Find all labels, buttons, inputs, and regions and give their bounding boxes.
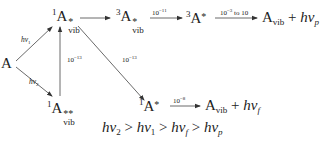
fluorescence-product: Avib + hνf xyxy=(205,98,260,115)
label-hv2: hν2 xyxy=(29,77,39,87)
label-hv1: hν1 xyxy=(21,35,31,45)
energy-inequality: hν2 > hν1 > hνf > hνp xyxy=(102,120,223,137)
state-singlet-vib-high: 1A**vib xyxy=(47,100,75,126)
state-singlet: 1A* xyxy=(139,98,159,114)
state-singlet-vib: 1A*vib xyxy=(52,8,80,34)
phosphorescence-product: Avib + hνp xyxy=(262,10,319,27)
rate-vibrational-relaxation: 10−13 xyxy=(122,55,137,64)
ground-state-A: A xyxy=(1,56,12,71)
state-triplet: 3A* xyxy=(186,10,206,26)
rate-phosphorescence: 10−3 to 10 xyxy=(220,8,248,17)
rate-fluorescence: 10−8 xyxy=(173,96,185,105)
rate-internal-conversion: 10−13 xyxy=(67,55,82,64)
rate-triplet-relax: 10−11 xyxy=(152,8,167,17)
state-triplet-vib: 3A*vib xyxy=(116,8,144,34)
